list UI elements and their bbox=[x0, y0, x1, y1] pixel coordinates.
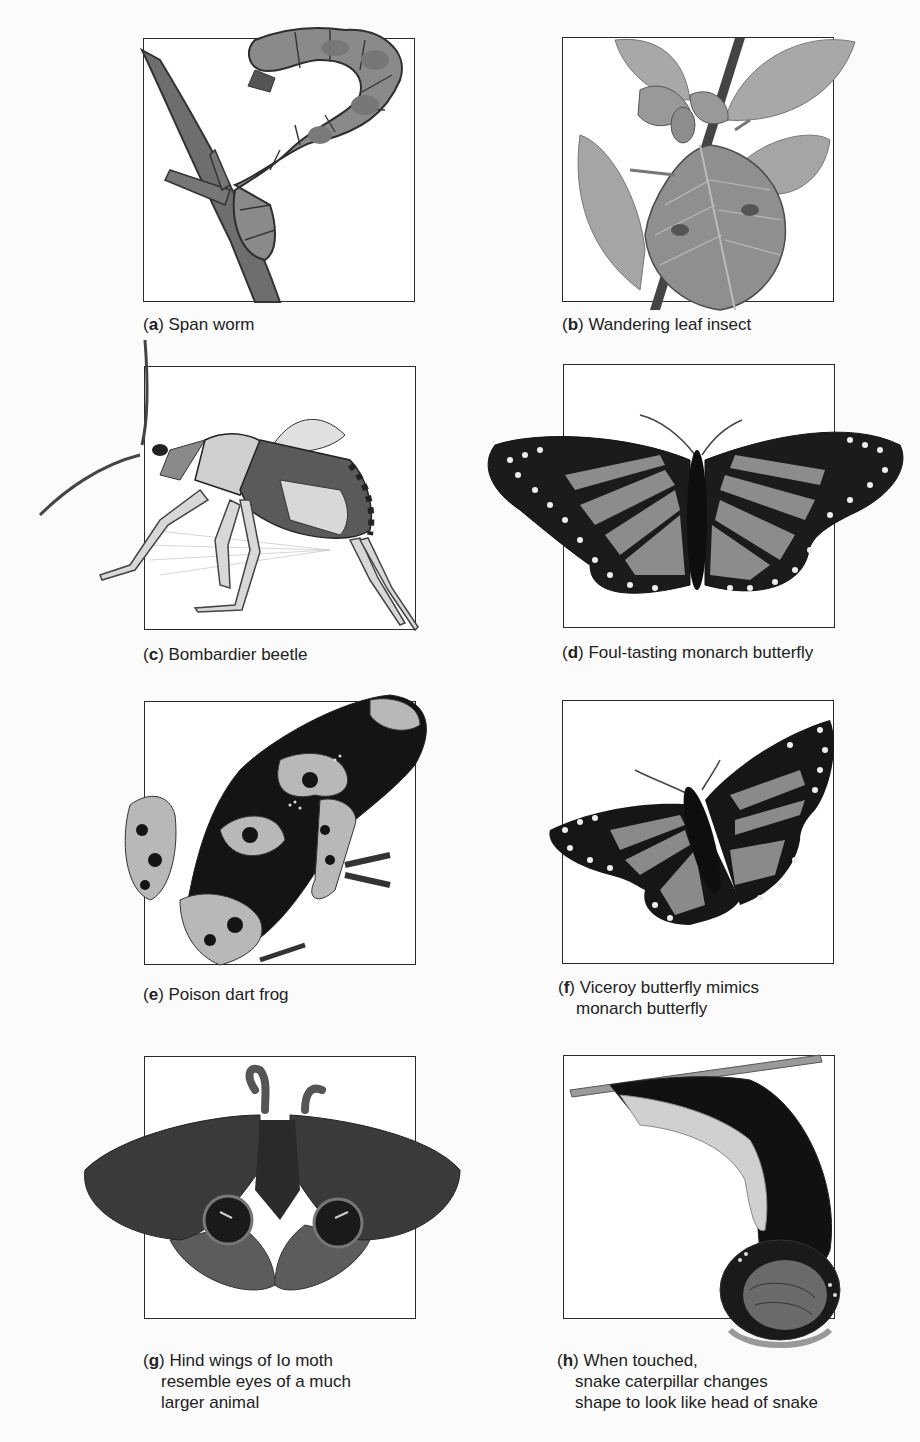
poison-dart-frog-illustration bbox=[120, 690, 440, 980]
panel-f-caption: (f) Viceroy butterfly mimicsmonarch butt… bbox=[558, 977, 759, 1019]
panel-c-caption: (c) Bombardier beetle bbox=[143, 644, 307, 665]
panel-e-caption: (e) Poison dart frog bbox=[143, 984, 289, 1005]
panel-g-caption: (g) Hind wings of Io mothresemble eyes o… bbox=[143, 1350, 351, 1413]
viceroy-butterfly-illustration bbox=[530, 690, 860, 980]
leaf-insect-illustration bbox=[550, 20, 870, 310]
panel-a-caption: (a) Span worm bbox=[143, 314, 255, 335]
panel-d-caption: (d) Foul-tasting monarch butterfly bbox=[562, 642, 813, 663]
bombardier-beetle-illustration bbox=[30, 340, 430, 640]
monarch-butterfly-illustration bbox=[480, 360, 910, 630]
snake-caterpillar-illustration bbox=[550, 1040, 870, 1360]
io-moth-illustration bbox=[60, 1040, 460, 1330]
panel-b-caption: (b) Wandering leaf insect bbox=[562, 314, 751, 335]
span-worm-illustration bbox=[130, 20, 430, 305]
panel-h-caption: (h) When touched,snake caterpillar chang… bbox=[557, 1350, 818, 1413]
